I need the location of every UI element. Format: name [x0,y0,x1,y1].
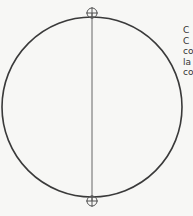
caption-line: co [183,67,193,78]
side-caption: C C co la co [183,25,193,78]
caption-line: C [183,25,193,36]
caption-line: la [183,57,193,68]
circle-diagram [0,0,193,216]
caption-line: co [183,46,193,57]
caption-line: C [183,36,193,47]
